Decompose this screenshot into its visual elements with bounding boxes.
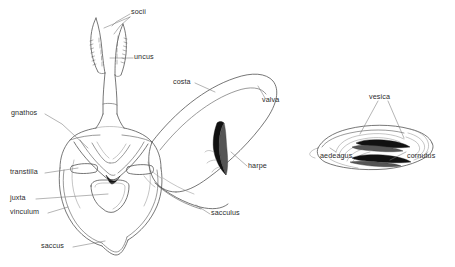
label-vesica: vesica bbox=[369, 93, 390, 100]
gnathos-shape bbox=[74, 140, 148, 184]
leader-socii-a bbox=[112, 14, 130, 26]
label-harpe: harpe bbox=[248, 162, 267, 169]
label-juxta: juxta bbox=[10, 194, 26, 201]
leader-socii-c bbox=[104, 17, 130, 28]
label-vinculum: vinculum bbox=[10, 208, 39, 215]
genitalia-figure: socii uncus gnathos costa valva harpe tr… bbox=[0, 0, 455, 267]
leader-sacculus bbox=[196, 205, 210, 214]
harpe-shape bbox=[205, 122, 228, 176]
leader-vesica-right bbox=[388, 101, 404, 138]
label-uncus: uncus bbox=[134, 53, 154, 60]
figure-linework bbox=[0, 0, 455, 267]
leader-harpe bbox=[231, 152, 247, 166]
label-valva: valva bbox=[262, 96, 279, 103]
vinculum-inner bbox=[72, 160, 150, 208]
label-cornutus: cornutus bbox=[407, 152, 435, 159]
sacculus-shape bbox=[155, 178, 228, 209]
socius-right-shape bbox=[115, 24, 127, 77]
aedeagus-drawing bbox=[310, 125, 433, 169]
label-sacculus: sacculus bbox=[211, 209, 240, 216]
uncus-shape bbox=[96, 73, 124, 128]
leader-saccus bbox=[73, 241, 105, 247]
cornutus-shape bbox=[350, 140, 411, 167]
label-aedeagus: aedeagus bbox=[320, 152, 352, 159]
saccus-shape bbox=[102, 237, 128, 255]
transtilla-shape bbox=[71, 164, 154, 175]
label-socii: socii bbox=[131, 8, 146, 15]
label-saccus: saccus bbox=[41, 242, 64, 249]
label-gnathos: gnathos bbox=[11, 109, 37, 116]
valva-shape bbox=[149, 74, 277, 192]
main-genitalia-drawing bbox=[59, 18, 277, 255]
juxta-shape bbox=[91, 180, 129, 212]
leader-costa bbox=[195, 83, 215, 92]
label-costa: costa bbox=[173, 78, 191, 85]
socius-left-shape bbox=[90, 18, 105, 74]
furca-shape bbox=[92, 142, 130, 163]
label-transtilla: transtilla bbox=[10, 168, 38, 175]
leader-juxta bbox=[36, 194, 108, 199]
leader-vesica-left bbox=[360, 101, 378, 134]
